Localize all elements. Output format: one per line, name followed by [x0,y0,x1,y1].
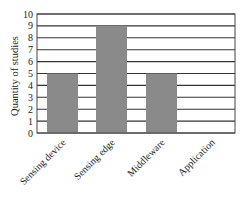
y-tick-label: 2 [28,104,33,115]
bar [96,26,127,133]
x-axis-labels: Sensing deviceSensing edgeMiddlewareAppl… [18,136,217,187]
y-axis-ticks: 012345678910 [23,9,33,139]
y-tick-label: 1 [28,116,33,127]
y-tick-label: 0 [28,128,33,139]
bar-chart: 012345678910 Sensing deviceSensing edgeM… [0,0,247,202]
bar [47,74,78,134]
y-tick-label: 10 [23,9,33,20]
x-tick-label: Sensing edge [72,136,118,182]
y-tick-label: 8 [28,32,33,43]
bars [47,26,177,133]
x-tick-label: Sensing device [18,136,69,187]
y-tick-label: 7 [28,44,33,55]
y-tick-label: 3 [28,92,33,103]
x-tick-label: Middleware [125,136,167,178]
y-tick-label: 4 [28,80,33,91]
y-tick-label: 5 [28,68,33,79]
bar [146,74,177,134]
y-tick-label: 9 [28,20,33,31]
y-axis-label: Quantity of studies [9,36,20,116]
y-tick-label: 6 [28,56,33,67]
x-tick-label: Application [176,137,217,178]
